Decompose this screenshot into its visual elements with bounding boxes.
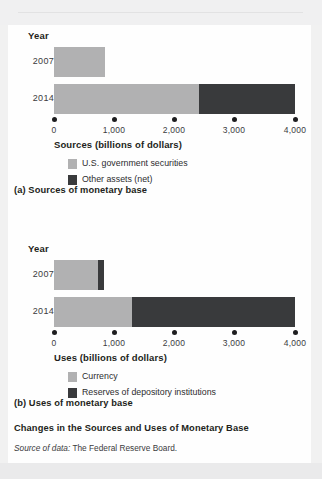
x-axis-a: 0 1,000 2,000 3,000 4,000 [54,117,295,141]
legend-swatch-icon [68,175,77,185]
bar-row-label: 2007 [22,56,54,66]
axis-tick-label: 2,000 [163,125,185,135]
figure-sheet: Year 2007 2014 [8,25,311,463]
axis-tick-label: 3,000 [223,125,245,135]
scan-artifact-bottom [0,463,322,479]
bar-row-2014-b: 2014 [8,297,311,327]
scan-artifact-top [0,0,322,25]
axis-tick-label: 3,000 [223,338,245,348]
axis-tick-label: 1,000 [103,125,125,135]
source-value: The Federal Reserve Board. [70,443,177,453]
bar-row-2007-a: 2007 [8,47,311,77]
axis-label-year-a: Year [28,30,49,41]
bar-segment-currency [54,260,98,290]
bar-segment-us-government-securities [54,84,199,114]
axis-tick-dot [112,117,117,122]
x-axis-title-b: Uses (billions of dollars) [54,352,167,363]
plot-area-a: 2007 2014 [8,47,311,139]
legend-label: Other assets (net) [82,174,152,184]
x-axis-title-a: Sources (billions of dollars) [54,139,182,150]
bar-track [54,297,295,327]
panel-caption-b: (b) Uses of monetary base [14,398,133,408]
panel-caption-a: (a) Sources of monetary base [14,185,147,195]
axis-tick-label: 4,000 [284,338,306,348]
bar-segment-reserves-of-depository-institutions [132,297,295,327]
legend-label: Reserves of depository institutions [82,387,216,397]
axis-tick-dot [112,330,117,335]
axis-tick-dot [232,330,237,335]
bar-track [54,260,295,290]
bar-row-label: 2014 [22,306,54,316]
scan-line [18,12,303,13]
scanned-page: Year 2007 2014 [0,0,322,479]
legend-label: Currency [82,371,118,381]
bar-segment-reserves-of-depository-institutions [98,260,104,290]
bar-segment-other-assets-net [199,84,295,114]
bar-track [54,47,295,77]
axis-tick-label: 4,000 [284,125,306,135]
axis-tick-dot [52,117,57,122]
axis-tick-label: 1,000 [103,338,125,348]
legend-label: U.S. government securities [82,158,188,168]
legend-swatch-icon [68,372,77,382]
x-axis-b: 0 1,000 2,000 3,000 4,000 [54,330,295,354]
figure-title: Changes in the Sources and Uses of Monet… [14,423,249,433]
axis-tick-dot [172,330,177,335]
axis-tick-dot [293,330,298,335]
figure: Year 2007 2014 [8,25,311,463]
bar-row-2014-a: 2014 [8,84,311,114]
axis-tick-dot [232,117,237,122]
bar-track [54,84,295,114]
legend-swatch-icon [68,388,77,398]
axis-label-year-b: Year [28,243,49,254]
axis-tick-label: 0 [52,338,57,348]
axis-tick-label: 0 [52,125,57,135]
bar-segment-currency [54,297,132,327]
figure-source-note: Source of data: The Federal Reserve Boar… [14,443,177,453]
axis-tick-label: 2,000 [163,338,185,348]
legend-swatch-icon [68,159,77,169]
plot-area-b: 2007 2014 [8,260,311,352]
axis-tick-dot [172,117,177,122]
bar-segment-us-government-securities [54,47,105,77]
source-label: Source of data: [14,443,70,453]
axis-tick-dot [293,117,298,122]
bar-row-label: 2014 [22,93,54,103]
bar-row-2007-b: 2007 [8,260,311,290]
axis-tick-dot [52,330,57,335]
bar-row-label: 2007 [22,269,54,279]
